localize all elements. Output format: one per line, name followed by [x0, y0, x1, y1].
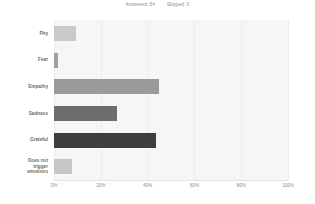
gridline	[241, 20, 242, 180]
bar-pity[interactable]	[54, 26, 76, 41]
category-label: Sadness	[0, 111, 48, 117]
x-tick-label: 40%	[143, 183, 152, 188]
category-label: Grateful	[0, 137, 48, 143]
category-label: Does nottriggeremotions	[0, 158, 48, 175]
category-label: Pity	[0, 31, 48, 37]
answered-count: Answered: 54	[126, 2, 155, 7]
bar-fear[interactable]	[54, 53, 58, 68]
bar-sadness[interactable]	[54, 106, 117, 121]
gridline	[148, 20, 149, 180]
gridline	[288, 20, 289, 180]
x-tick-label: 60%	[190, 183, 199, 188]
x-axis-line	[54, 180, 288, 181]
gridline	[101, 20, 102, 180]
bar-empathy[interactable]	[54, 79, 159, 94]
x-tick-label: 0%	[51, 183, 58, 188]
survey-bar-chart: Answered: 54 Skipped: 0 PityFearEmpathyS…	[0, 0, 315, 204]
category-axis: PityFearEmpathySadnessGratefulDoes nottr…	[0, 20, 50, 180]
x-tick-label: 100%	[282, 183, 294, 188]
skipped-count: Skipped: 0	[167, 2, 190, 7]
gridline	[194, 20, 195, 180]
chart-header: Answered: 54 Skipped: 0	[0, 2, 315, 7]
category-label: Empathy	[0, 84, 48, 90]
x-tick-label: 80%	[237, 183, 246, 188]
bar-does-not-trigger-emotions[interactable]	[54, 159, 72, 174]
bar-grateful[interactable]	[54, 133, 156, 148]
x-tick-label: 20%	[96, 183, 105, 188]
plot-area	[54, 20, 288, 180]
gridline	[54, 20, 55, 180]
category-label: Fear	[0, 57, 48, 63]
